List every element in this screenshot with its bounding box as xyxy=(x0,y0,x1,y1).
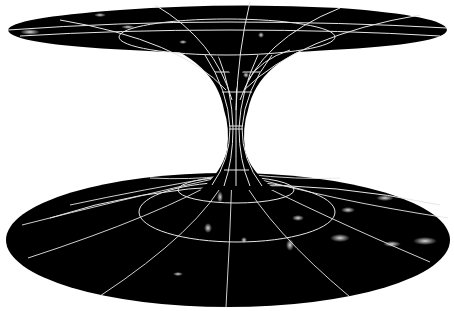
wormhole-diagram xyxy=(0,0,454,311)
bottom-sheet xyxy=(6,173,450,307)
wormhole-illustration xyxy=(0,0,454,311)
